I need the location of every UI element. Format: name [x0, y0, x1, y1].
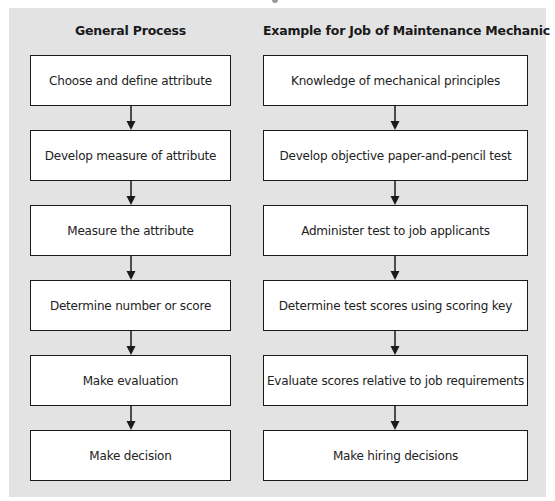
- clipped-title-fragment: [272, 0, 278, 3]
- arrow-down-icon: [389, 105, 401, 130]
- example-step-2: Develop objective paper-and-pencil test: [263, 130, 528, 181]
- arrow-down-icon: [125, 105, 137, 130]
- general-step-4: Determine number or score: [30, 280, 231, 331]
- arrow-down-icon: [389, 330, 401, 355]
- right-column-header: Example for Job of Maintenance Mechanic: [263, 21, 528, 41]
- general-step-2: Develop measure of attribute: [30, 130, 231, 181]
- left-column-header: General Process: [30, 21, 231, 41]
- arrow-down-icon: [125, 405, 137, 430]
- arrow-down-icon: [389, 405, 401, 430]
- example-step-1: Knowledge of mechanical principles: [263, 55, 528, 106]
- general-step-1: Choose and define attribute: [30, 55, 231, 106]
- arrow-down-icon: [389, 180, 401, 205]
- general-step-5: Make evaluation: [30, 355, 231, 406]
- example-step-4: Determine test scores using scoring key: [263, 280, 528, 331]
- example-step-5: Evaluate scores relative to job requirem…: [263, 355, 528, 406]
- example-step-3: Administer test to job applicants: [263, 205, 528, 256]
- arrow-down-icon: [125, 255, 137, 280]
- example-step-6: Make hiring decisions: [263, 430, 528, 481]
- arrow-down-icon: [125, 180, 137, 205]
- arrow-down-icon: [389, 255, 401, 280]
- general-step-6: Make decision: [30, 430, 231, 481]
- arrow-down-icon: [125, 330, 137, 355]
- general-step-3: Measure the attribute: [30, 205, 231, 256]
